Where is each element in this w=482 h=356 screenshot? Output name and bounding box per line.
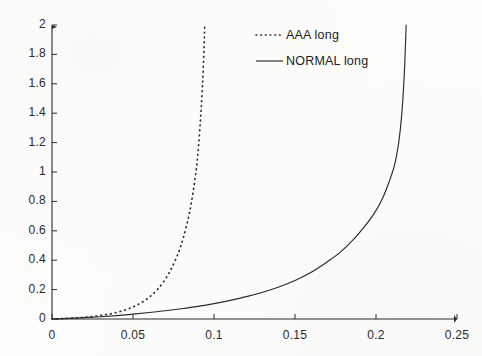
y-tick-label: 0.4 <box>0 252 46 266</box>
y-tick-label: 0.6 <box>0 223 46 237</box>
y-tick-label: 0.8 <box>0 193 46 207</box>
legend-label-aaa-long: AAA long <box>286 28 339 42</box>
y-tick-label: 2 <box>0 17 46 31</box>
legend-label-normal-long: NORMAL long <box>286 54 368 68</box>
series-line-normal-long <box>52 25 406 319</box>
x-axis-ticks <box>52 314 457 319</box>
y-tick-label: 0 <box>0 311 46 325</box>
x-tick-label: 0 <box>27 328 77 342</box>
series-line-aaa-long <box>52 25 205 319</box>
y-tick-label: 1.4 <box>0 105 46 119</box>
x-tick-label: 0.25 <box>432 328 482 342</box>
y-tick-label: 1.8 <box>0 46 46 60</box>
x-tick-label: 0.15 <box>270 328 320 342</box>
y-tick-label: 0.2 <box>0 282 46 296</box>
y-axis-cap <box>52 25 57 29</box>
plot-canvas <box>0 0 482 356</box>
x-tick-label: 0.1 <box>189 328 239 342</box>
y-tick-label: 1.6 <box>0 76 46 90</box>
chart-figure: AAA long NORMAL long 00.20.40.60.811.21.… <box>0 0 482 356</box>
legend-samples <box>256 35 283 61</box>
y-tick-label: 1.2 <box>0 135 46 149</box>
x-tick-label: 0.05 <box>108 328 158 342</box>
x-tick-label: 0.2 <box>351 328 401 342</box>
y-tick-label: 1 <box>0 164 46 178</box>
y-axis-ticks <box>52 25 57 319</box>
axis-lines <box>52 25 457 323</box>
